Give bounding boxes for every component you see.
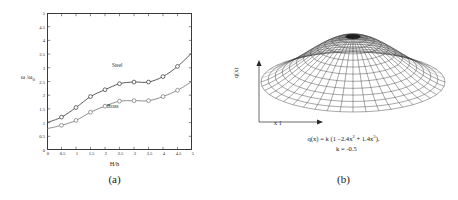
plot-a-x-axis-label: H/h — [0, 161, 229, 167]
data-point-brass — [161, 95, 165, 99]
data-point-steel — [147, 80, 151, 84]
data-point-steel — [89, 95, 93, 99]
y-tick-label: 0 — [43, 149, 45, 154]
x-tick-label: 0.5 — [60, 152, 66, 157]
y-tick-label: 5 — [43, 12, 45, 17]
surface-y-axis-arrow-icon — [256, 60, 261, 66]
x-tick-label: 5 — [192, 152, 194, 157]
data-point-steel — [60, 115, 64, 119]
y-tick-label: 3 — [43, 67, 45, 72]
panel-a: 00.511.522.533.544.5500.511.522.533.544.… — [0, 0, 229, 200]
data-point-steel — [103, 88, 107, 92]
surface-x-axis-arrow-icon — [317, 119, 323, 124]
data-point-steel — [132, 80, 136, 84]
y-tick-label: 4 — [43, 39, 45, 44]
y-tick-label: 1 — [43, 121, 45, 126]
y-tick-label: 2 — [43, 94, 45, 99]
surface-plot-canvas — [235, 8, 451, 130]
surface-equation: q(x) = k (1 –2.4x2 + 1.4x3),k = -0.5 — [229, 133, 458, 155]
y-tick-label: 0.5 — [39, 135, 45, 140]
series-label-steel: Steel — [112, 63, 122, 68]
mesh-meridian — [353, 36, 403, 107]
series-curve-brass — [47, 82, 192, 129]
data-point-steel — [74, 106, 78, 110]
data-point-steel — [161, 75, 165, 79]
equation-part-1: q(x) = k (1 –2.4x — [308, 135, 353, 142]
y-tick-label: 1.5 — [39, 108, 45, 113]
data-point-brass — [89, 110, 93, 114]
equation-part-2: + 1.4x — [355, 135, 374, 142]
surface-y-axis-label: q(x) — [233, 68, 239, 78]
data-point-steel — [118, 82, 122, 86]
series-label-brass: Brass — [107, 104, 119, 109]
x-tick-label: 2.5 — [118, 152, 124, 157]
equation-part-3: ), — [376, 135, 380, 142]
data-point-brass — [132, 99, 136, 103]
y-axis-label-subscript: 0 — [32, 77, 34, 82]
mesh-meridian — [303, 36, 353, 107]
x-tick-label: 2 — [105, 152, 107, 157]
surface-central-depression — [346, 34, 360, 39]
y-axis-label-text: ω /ω — [21, 73, 32, 80]
y-tick-label: 2.5 — [39, 80, 45, 85]
data-point-brass — [60, 123, 64, 127]
panel-b-caption: (b) — [229, 174, 458, 185]
x-tick-label: 3.5 — [147, 152, 153, 157]
x-tick-label: 1.5 — [89, 152, 95, 157]
figure-container: 00.511.522.533.544.5500.511.522.533.544.… — [0, 0, 458, 200]
equation-k-value: k = -0.5 — [229, 144, 458, 154]
panel-a-caption: (a) — [0, 174, 229, 185]
data-point-brass — [176, 88, 180, 92]
plot-a-y-axis-label: ω /ω0 — [21, 74, 35, 83]
mesh-meridian — [353, 36, 430, 98]
data-point-brass — [147, 99, 151, 103]
x-tick-label: 4 — [163, 152, 165, 157]
x-tick-label: 1 — [76, 152, 78, 157]
y-tick-label: 4.5 — [39, 25, 45, 30]
mesh-meridian — [276, 36, 353, 98]
mesh-meridian — [353, 36, 445, 82]
mesh-meridian — [261, 36, 353, 82]
data-point-steel — [176, 65, 180, 69]
y-tick-label: 3.5 — [39, 53, 45, 58]
panel-b: x 1 q(x) q(x) = k (1 –2.4x2 + 1.4x3),k =… — [229, 0, 458, 200]
data-point-brass — [74, 119, 78, 123]
x-tick-label: 0 — [47, 152, 49, 157]
surface-mesh — [261, 34, 445, 112]
x-tick-label: 4.5 — [176, 152, 182, 157]
plot-a-canvas — [47, 13, 192, 150]
surface-x-axis-label: x 1 — [274, 120, 282, 126]
x-tick-label: 3 — [134, 152, 136, 157]
